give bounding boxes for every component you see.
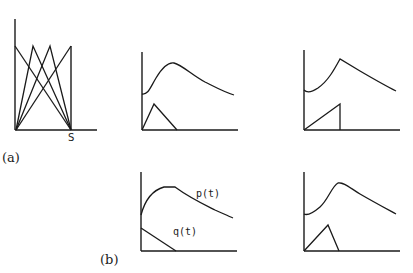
q-curve xyxy=(141,228,176,251)
panel-a-label: (a) xyxy=(2,150,20,165)
panel-a-plot xyxy=(15,19,97,130)
panel-b-label: (b) xyxy=(100,252,118,267)
upper-curve xyxy=(304,183,396,215)
subplot-bottom-right xyxy=(304,172,400,251)
figure-canvas xyxy=(0,0,413,273)
upper-curve xyxy=(142,63,234,95)
lower-triangle xyxy=(304,225,339,251)
p-curve-label: p(t) xyxy=(196,188,220,199)
subplot-bottom-middle xyxy=(141,172,237,251)
q-curve-label: q(t) xyxy=(173,226,197,237)
lower-triangle xyxy=(142,104,177,130)
subplot-top-middle xyxy=(142,52,238,130)
subplot-top-right xyxy=(304,50,400,130)
s-tick-label: S xyxy=(68,132,74,143)
lower-ramp xyxy=(304,104,340,130)
upper-curve xyxy=(304,59,396,92)
